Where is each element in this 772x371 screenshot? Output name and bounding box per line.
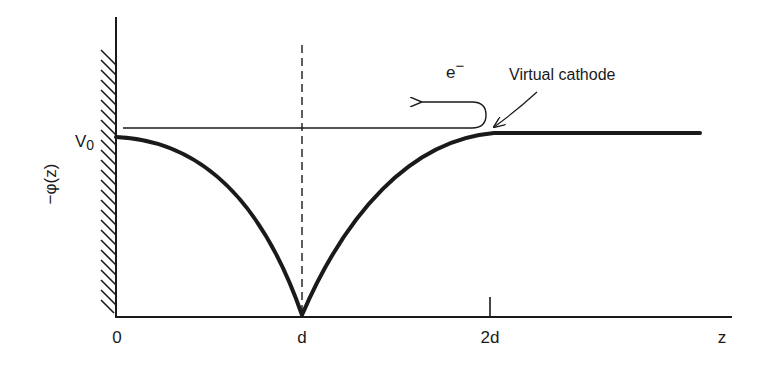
v0-label: V0 (75, 132, 94, 153)
tick-label-d: d (297, 328, 306, 347)
tick-label-0: 0 (112, 328, 121, 347)
cathode-wall-hatching (101, 50, 116, 313)
virtual-cathode-label: Virtual cathode (509, 66, 616, 83)
y-axis-label: −φ(z) (41, 164, 60, 205)
x-axis-label: z (718, 328, 727, 347)
potential-curve (116, 133, 700, 315)
electron-trajectory (123, 102, 486, 128)
virtual-cathode-arrow (494, 92, 537, 127)
tick-label-2d: 2d (481, 328, 500, 347)
potential-diagram: −φ(z) V0 0 d 2d z e− Virtual cathode (0, 0, 772, 371)
electron-label: e− (446, 57, 464, 82)
